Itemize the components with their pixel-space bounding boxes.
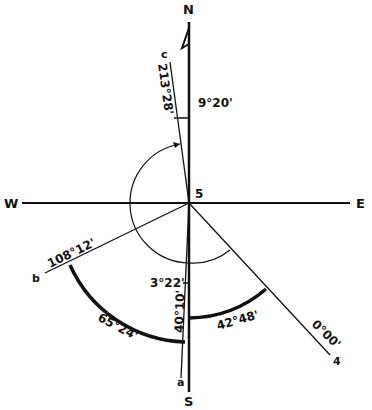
bearing-4-label: 0°00' bbox=[309, 317, 344, 351]
line-b-label: b bbox=[32, 272, 40, 285]
angle-65-24-label: 65°24' bbox=[96, 310, 141, 343]
west-label: W bbox=[4, 196, 18, 211]
north-label: N bbox=[183, 2, 194, 17]
station-label: 5 bbox=[195, 187, 203, 201]
angle-42-48-label: 42°48' bbox=[215, 308, 260, 333]
angle-40-10-label: 40°10' bbox=[172, 290, 187, 334]
line-a-label: a bbox=[177, 376, 184, 389]
bearing-c-label: 213°28' bbox=[155, 62, 176, 115]
line-c-label: c bbox=[161, 48, 168, 61]
line-4 bbox=[189, 203, 330, 355]
survey-diagram: N S W E 5 c 213°28' 9°20' b 108°12' 3°22… bbox=[0, 0, 372, 410]
line-c bbox=[170, 62, 189, 203]
line-4-label: 4 bbox=[333, 355, 341, 368]
angle-9-20-label: 9°20' bbox=[198, 96, 233, 110]
angle-3-22-label: 3°22' bbox=[150, 276, 185, 290]
arrowhead-icon bbox=[173, 142, 180, 148]
east-label: E bbox=[356, 196, 365, 211]
south-label: S bbox=[184, 394, 193, 409]
